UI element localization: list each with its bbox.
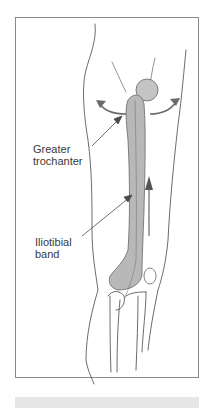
label-iliotibial-band-line2: band: [35, 248, 72, 260]
leg-anatomy-illustration: [0, 0, 208, 408]
label-iliotibial-band: Iliotibial band: [35, 236, 72, 260]
leg-outline-left: [84, 24, 98, 384]
label-greater-trochanter: Greater trochanter: [33, 143, 83, 167]
pointer-greater-trochanter: [92, 118, 120, 146]
label-greater-trochanter-line1: Greater: [33, 143, 83, 155]
pointer-iliotibial-band: [82, 197, 130, 236]
caption-bar: [15, 397, 199, 408]
label-iliotibial-band-line1: Iliotibial: [35, 236, 72, 248]
up-arrow-icon: [145, 176, 153, 236]
label-greater-trochanter-line2: trochanter: [33, 155, 83, 167]
